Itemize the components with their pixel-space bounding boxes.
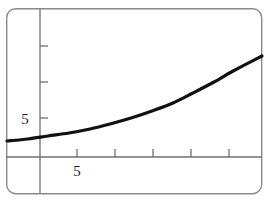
graph-figure: 5 5 — [0, 0, 268, 201]
graph-screenshot: 5 5 — [0, 0, 268, 201]
y-axis-tick-label-5: 5 — [21, 111, 29, 127]
x-axis-tick-label-5: 5 — [73, 163, 81, 179]
